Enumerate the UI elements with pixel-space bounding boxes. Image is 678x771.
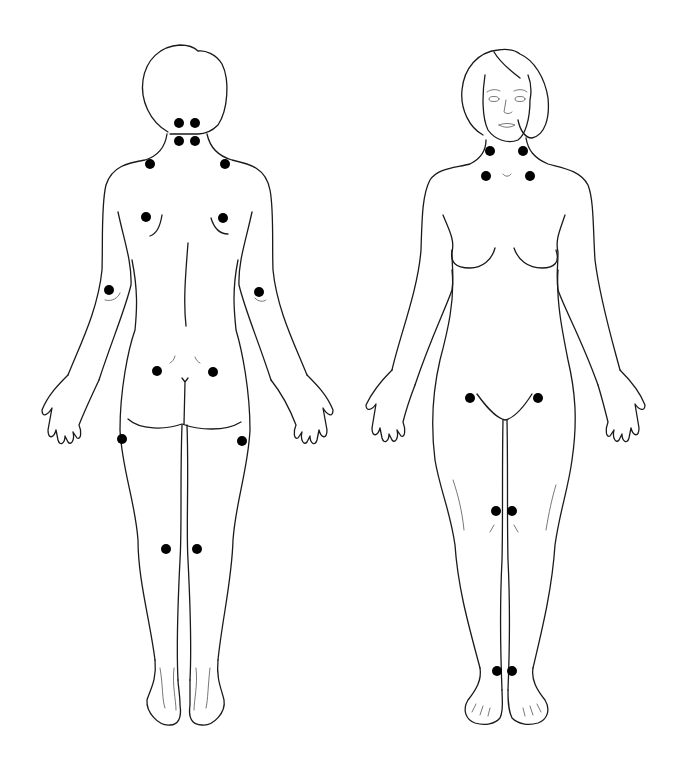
back-view-figure — [42, 45, 333, 725]
tender-point-greater-trochanter-left — [117, 434, 127, 444]
back-head-outline — [142, 45, 226, 134]
back-right-inner-arm — [239, 212, 271, 380]
tender-point-low-cervical-left — [485, 146, 495, 156]
tender-point-hip-front-left — [465, 393, 475, 403]
front-face-outline — [483, 75, 531, 142]
tender-point-knee-back-left — [161, 544, 171, 554]
front-face-features — [487, 90, 527, 128]
tender-point-lateral-epicondyle-right — [254, 287, 264, 297]
tender-point-low-cervical-right — [518, 146, 528, 156]
back-tender-points — [104, 118, 264, 554]
tender-point-gluteal-right — [208, 367, 218, 377]
front-waist-left — [433, 270, 480, 668]
tender-point-supraspinatus-right — [218, 213, 228, 223]
back-dimple-left — [170, 356, 175, 363]
tender-point-occiput-left-upper — [174, 118, 184, 128]
front-neck-shoulder-left — [392, 140, 486, 370]
back-achilles-lines — [160, 668, 210, 710]
back-gluteal-cleft — [182, 378, 188, 424]
front-left-foot — [465, 668, 502, 724]
back-scapula-left — [150, 215, 162, 236]
tender-point-trapezius-right — [220, 159, 230, 169]
front-sternal-notch — [503, 174, 511, 176]
front-inner-arm-right — [557, 215, 598, 385]
tender-point-hip-front-right — [533, 393, 543, 403]
back-left-foot — [147, 660, 181, 725]
front-right-foot — [508, 668, 548, 724]
front-waist-right — [533, 270, 575, 668]
tender-point-trapezius-left — [145, 159, 155, 169]
back-spine — [185, 243, 188, 326]
front-toe-lines — [472, 704, 541, 716]
tender-point-knee-back-right — [192, 544, 202, 554]
front-pelvis — [477, 394, 532, 420]
tender-point-second-rib-right — [525, 171, 535, 181]
tender-point-supraspinatus-left — [141, 212, 151, 222]
tender-point-knee-medial-left — [491, 506, 501, 516]
front-neck-shoulder-right — [526, 138, 620, 370]
back-right-foot — [190, 660, 225, 725]
front-breast-right — [514, 248, 557, 268]
tender-point-occiput-left-lower — [174, 136, 184, 146]
front-inner-leg-left — [501, 420, 504, 690]
tender-point-gluteal-left — [152, 366, 162, 376]
tender-point-occiput-right-upper — [190, 118, 200, 128]
front-hair-part — [494, 52, 520, 78]
front-inner-leg-right — [507, 420, 510, 690]
tender-point-occiput-right-lower — [190, 136, 200, 146]
back-right-hand — [271, 375, 333, 444]
tender-point-lateral-epicondyle-left — [104, 285, 114, 295]
back-torso-outline — [68, 134, 167, 375]
front-hair-outline — [462, 49, 549, 138]
front-left-hand — [366, 370, 415, 442]
back-dimple-right — [195, 357, 200, 363]
front-breast-left — [452, 248, 495, 268]
tender-point-ankle-right — [507, 666, 517, 676]
tender-point-second-rib-left — [481, 171, 491, 181]
tender-point-knee-medial-right — [507, 506, 517, 516]
body-map-diagram — [0, 0, 678, 771]
front-tender-points — [465, 146, 543, 676]
front-right-hand — [598, 370, 645, 442]
back-right-waist — [218, 260, 250, 660]
tender-point-greater-trochanter-right — [237, 436, 247, 446]
back-elbow-right — [255, 298, 266, 301]
back-left-hand — [42, 375, 99, 444]
front-view-figure — [366, 49, 645, 724]
back-inner-leg-left — [177, 425, 182, 680]
tender-point-ankle-left — [492, 666, 502, 676]
front-knee-lines — [453, 480, 556, 532]
back-inner-leg-right — [187, 425, 191, 680]
back-left-inner-arm — [99, 212, 131, 380]
back-left-waist — [120, 260, 155, 660]
